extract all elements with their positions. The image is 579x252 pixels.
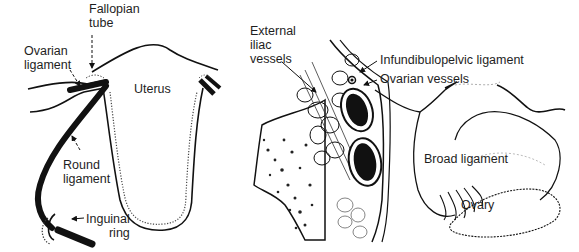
label-line: Inguinal: [86, 212, 130, 226]
label-line: ring: [86, 226, 130, 240]
label-ovarian-vessels: Ovarian vessels: [380, 72, 469, 86]
label-line: Round: [63, 158, 110, 172]
label-fallopian-tube: Fallopian tube: [89, 2, 140, 30]
label-ovary: Ovary: [461, 198, 494, 212]
label-line: Ovarian: [24, 44, 71, 58]
external-iliac-vessels: [335, 84, 385, 188]
label-inguinal-ring: Inguinal ring: [86, 212, 130, 240]
label-line: tube: [89, 16, 140, 30]
uterus-outline: [92, 45, 218, 72]
label-ovarian-ligament: Ovarian ligament: [24, 44, 71, 72]
label-line: ligament: [63, 172, 110, 186]
uterine-outline-right: [497, 85, 565, 112]
ovary-shape: [450, 189, 560, 237]
pelvic-sidewall-diagram: [254, 40, 565, 242]
label-line: vessels: [250, 52, 296, 66]
pelvic-bone: [254, 100, 325, 240]
label-broad-ligament: Broad ligament: [424, 152, 508, 166]
label-external-iliac-vessels: External iliac vessels: [250, 24, 296, 66]
anatomy-figure: Fallopian tube Ovarian ligament Uterus R…: [0, 0, 579, 252]
label-line: ligament: [24, 58, 71, 72]
label-line: Fallopian: [89, 2, 140, 16]
label-infundibulopelvic-ligament: Infundibulopelvic ligament: [380, 53, 524, 67]
round-ligament-shape: [38, 86, 106, 228]
label-uterus: Uterus: [134, 82, 171, 96]
label-line: External: [250, 24, 296, 38]
label-round-ligament: Round ligament: [63, 158, 110, 186]
label-line: iliac: [250, 38, 296, 52]
